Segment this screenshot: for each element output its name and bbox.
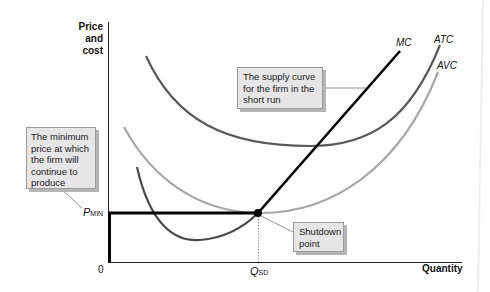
callout-line: The supply curve bbox=[243, 71, 317, 83]
page-edge bbox=[478, 0, 483, 292]
mc-curve-lower bbox=[137, 167, 258, 240]
avc-label: AVC bbox=[437, 60, 457, 71]
supply-curve-callout: The supply curve for the firm in the sho… bbox=[237, 67, 323, 109]
callout-line: produce bbox=[31, 177, 91, 189]
mc-label: MC bbox=[396, 37, 412, 48]
origin-label: 0 bbox=[98, 264, 104, 275]
pmin-label: PMIN bbox=[83, 206, 103, 218]
callout-line: for the firm in the bbox=[243, 83, 317, 95]
callout-line: Shutdown bbox=[299, 226, 338, 238]
shutdown-leader-line bbox=[261, 216, 293, 232]
pmin-leader-line bbox=[60, 188, 82, 208]
pmin-subscript: MIN bbox=[90, 210, 103, 217]
qsd-main: Q bbox=[250, 265, 259, 277]
y-title-line: Price bbox=[60, 21, 103, 33]
shutdown-point-marker bbox=[254, 209, 262, 217]
y-axis-title: Price and cost bbox=[60, 21, 103, 57]
qsd-label: QSD bbox=[250, 265, 268, 277]
atc-label: ATC bbox=[434, 34, 453, 45]
callout-line: short run bbox=[243, 94, 317, 106]
shutdown-point-callout: Shutdown point bbox=[293, 222, 344, 252]
qsd-subscript: SD bbox=[259, 269, 269, 276]
callout-line: point bbox=[299, 238, 338, 250]
y-title-line: cost bbox=[60, 45, 103, 57]
callout-line: continue to bbox=[31, 166, 91, 178]
x-axis-title: Quantity bbox=[422, 263, 463, 274]
y-title-line: and bbox=[60, 33, 103, 45]
minimum-price-callout: The minimum price at which the firm will… bbox=[26, 127, 96, 189]
callout-line: the firm will bbox=[31, 154, 91, 166]
callout-line: price at which bbox=[31, 143, 91, 155]
callout-line: The minimum bbox=[31, 131, 91, 143]
